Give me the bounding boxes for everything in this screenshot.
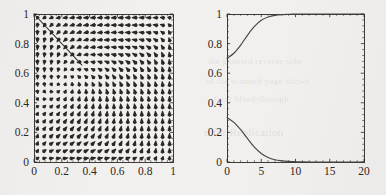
field-arrow <box>76 74 82 80</box>
field-arrow <box>90 23 97 28</box>
field-arrow <box>132 30 138 35</box>
vector-field-plot: 00.20.40.60.81 00.20.40.60.81 <box>0 0 193 195</box>
field-arrow <box>104 132 110 139</box>
field-arrow <box>97 111 102 118</box>
field-arrow <box>77 96 82 102</box>
field-arrow <box>153 96 158 103</box>
y-tick-label: 0.4 <box>208 97 223 109</box>
field-arrow <box>62 15 68 20</box>
field-arrow <box>125 23 131 27</box>
field-arrow <box>146 148 151 155</box>
field-arrow <box>153 148 158 154</box>
field-arrow <box>111 16 117 20</box>
field-arrow <box>160 103 165 109</box>
field-arrow <box>153 88 158 95</box>
field-arrow <box>118 38 124 43</box>
y-tick-label: 0.4 <box>15 97 30 109</box>
field-arrow <box>110 73 117 80</box>
field-arrow <box>132 88 138 95</box>
field-arrow <box>42 59 47 65</box>
field-arrow <box>118 125 123 132</box>
field-arrow <box>62 66 68 72</box>
field-arrow <box>153 15 159 19</box>
field-arrow <box>132 96 137 103</box>
field-arrow <box>104 73 111 80</box>
field-arrow <box>111 88 117 95</box>
field-arrow <box>97 59 104 65</box>
field-arrow <box>97 23 103 28</box>
field-arrow <box>167 29 173 35</box>
field-arrow <box>112 103 117 109</box>
y-tick-label: 0 <box>23 156 29 168</box>
field-arrow <box>90 132 97 139</box>
field-arrow <box>48 22 55 29</box>
field-arrow <box>139 73 145 80</box>
field-arrow <box>55 125 62 132</box>
field-arrow <box>91 96 95 102</box>
field-arrow <box>69 103 75 110</box>
field-arrow <box>42 74 47 79</box>
x-tick-label: 10 <box>290 165 302 177</box>
field-arrow <box>139 23 145 28</box>
field-arrow <box>69 148 76 154</box>
field-arrow <box>76 103 82 110</box>
field-arrow <box>104 156 111 162</box>
field-arrow <box>124 155 131 161</box>
field-arrow <box>139 81 145 88</box>
field-arrow <box>118 88 124 95</box>
field-arrow <box>160 126 164 132</box>
field-arrow <box>153 73 159 80</box>
field-arrow <box>153 118 158 124</box>
x-axis-tick-labels-left: 00.20.40.60.81 <box>31 165 176 177</box>
field-arrow <box>131 66 138 73</box>
field-arrow <box>41 111 47 117</box>
field-arrow <box>76 118 83 125</box>
field-arrow <box>69 74 75 80</box>
field-arrow <box>48 125 55 132</box>
field-arrow <box>76 156 83 161</box>
field-arrow <box>139 147 145 154</box>
field-arrow <box>160 81 165 88</box>
field-arrow <box>160 66 165 73</box>
field-arrow <box>90 156 97 161</box>
field-arrow <box>111 96 116 103</box>
field-arrow <box>147 126 151 132</box>
field-arrow <box>62 36 69 43</box>
field-arrow <box>167 148 171 154</box>
field-arrow <box>49 90 53 94</box>
field-arrow <box>160 88 165 95</box>
field-arrow <box>41 156 47 161</box>
panel-vector-field: 00.20.40.60.81 00.20.40.60.81 <box>0 0 193 195</box>
field-arrow <box>70 89 75 95</box>
field-arrow <box>69 110 75 117</box>
field-arrow <box>84 89 89 95</box>
field-arrow <box>83 156 90 161</box>
field-arrow <box>75 140 82 147</box>
field-arrow <box>76 15 82 20</box>
time-series-plot: 00.20.40.60.81 05101520 <box>193 0 386 195</box>
field-arrow <box>55 133 62 140</box>
field-arrow <box>117 73 124 80</box>
field-arrow <box>146 16 152 20</box>
y-tick-label: 0.6 <box>208 67 223 79</box>
field-arrow <box>35 37 40 43</box>
field-arrow <box>62 156 69 161</box>
field-arrow <box>159 29 166 35</box>
field-arrow <box>139 111 144 117</box>
field-arrow <box>125 81 131 88</box>
field-arrow <box>76 44 83 50</box>
field-arrow <box>41 89 47 95</box>
field-arrow <box>152 30 159 36</box>
x-tick-label: 0 <box>224 165 230 177</box>
y-tick-label: 0.8 <box>208 38 223 50</box>
field-arrow <box>132 140 138 147</box>
field-arrow <box>35 140 41 146</box>
field-arrow <box>83 132 90 139</box>
field-arrow <box>96 147 103 154</box>
field-arrow <box>56 75 60 80</box>
field-arrow <box>126 118 130 124</box>
field-arrow <box>138 51 145 58</box>
field-arrow <box>62 59 68 65</box>
field-arrow <box>105 96 110 103</box>
field-arrow <box>69 118 76 125</box>
